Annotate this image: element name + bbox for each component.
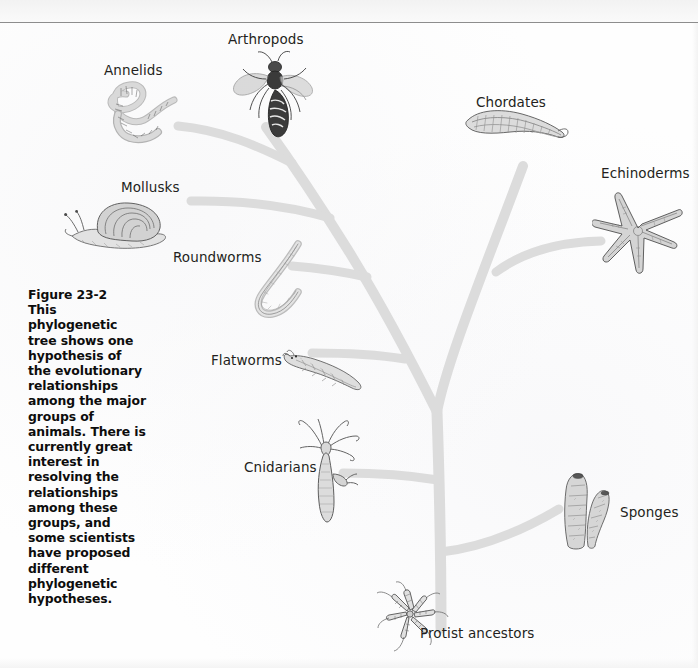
- choanoflagellate-illustration: [374, 580, 450, 654]
- tip-label-chordates: Chordates: [476, 94, 546, 110]
- figure-page: Annelids Arthropods Chordates Echinoderm…: [0, 0, 698, 668]
- tip-label-annelids: Annelids: [104, 62, 163, 78]
- tip-label-cnidarians: Cnidarians: [244, 459, 317, 475]
- tip-label-roundworms: Roundworms: [173, 249, 262, 265]
- wasp-illustration: [228, 46, 318, 146]
- planarian-illustration: [280, 346, 366, 394]
- tip-label-flatworms: Flatworms: [211, 352, 282, 368]
- tip-label-protist-ancestors: Protist ancestors: [420, 625, 535, 641]
- hydra-illustration: [288, 416, 368, 536]
- figure-caption-text: This phylogenetic tree shows one hypothe…: [28, 302, 146, 606]
- tip-label-arthropods: Arthropods: [228, 31, 304, 47]
- branch-deuterostome-limb: [437, 166, 523, 412]
- branch-mollusks: [191, 201, 330, 218]
- branch-echinoderms: [496, 241, 601, 272]
- tip-label-echinoderms: Echinoderms: [601, 165, 690, 181]
- sea-star-illustration: [592, 186, 686, 274]
- sponge-illustration: [556, 466, 614, 552]
- branch-sponges: [441, 509, 559, 552]
- snail-illustration: [62, 192, 182, 256]
- figure-caption: Figure 23-2 This phylogenetic tree shows…: [28, 287, 146, 606]
- earthworm-illustration: [96, 76, 192, 152]
- lancelet-illustration: [462, 104, 570, 150]
- tip-label-mollusks: Mollusks: [121, 179, 180, 195]
- tip-label-sponges: Sponges: [620, 504, 679, 520]
- figure-number: Figure 23-2: [28, 287, 146, 302]
